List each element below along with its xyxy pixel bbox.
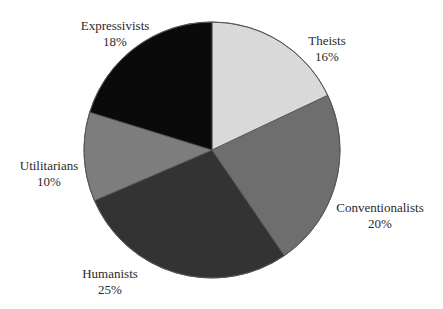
slice-label-conventionalists: Conventionalists 20% [336,200,423,232]
slice-label-humanists: Humanists 25% [82,266,138,298]
slice-label-theists: Theists 16% [308,33,346,65]
slice-percent: 20% [336,216,423,232]
slice-percent: 16% [308,49,346,65]
slice-percent: 25% [82,282,138,298]
slice-name: Theists [308,33,346,49]
slice-percent: 18% [81,34,150,50]
slice-label-utilitarians: Utilitarians 10% [20,158,79,190]
slice-label-expressivists: Expressivists 18% [81,18,150,50]
slice-name: Utilitarians [20,158,79,174]
slice-name: Conventionalists [336,200,423,216]
slice-name: Expressivists [81,18,150,34]
pie-slices [84,22,340,278]
slice-name: Humanists [82,266,138,282]
pie-chart [0,0,443,309]
slice-percent: 10% [20,174,79,190]
